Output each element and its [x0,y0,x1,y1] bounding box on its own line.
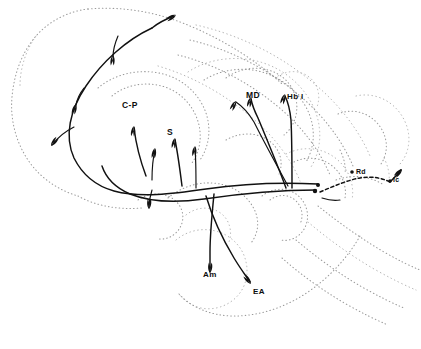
outline-striatum-shell [98,72,209,160]
tract-amygdala-descend [210,194,214,272]
label-lc: lc [393,176,399,183]
tract-raphe-dashed [320,177,390,192]
label-ea: EA [253,288,265,296]
label-s: S [167,128,173,137]
outline-thalamus-inner [204,69,313,162]
outline-striatum-core [112,84,200,163]
outline-brainstem-2 [308,222,416,290]
tract-brainstem-short-1 [322,198,340,200]
outline-thalamus-outer [188,59,320,168]
fiber-tract-layer [52,16,401,282]
outline-tectum [338,111,386,164]
label-am: Am [203,271,217,279]
tract-habenular [285,96,292,188]
outline-cortex-arc-3 [178,55,330,175]
outline-rostral-tip [20,36,36,86]
outline-cortex-outer-dorsal [88,8,282,84]
nucleus-dot-dot-rd [350,170,354,174]
label-md: MD [246,91,260,100]
outline-cerebellum-hint [356,95,409,164]
outline-rd-region [340,150,345,174]
nucleus-dot-dot-lc [388,179,392,183]
label-hb-l: Hb l [287,93,304,101]
neuroanatomical-diagram-figure: C-PSMDHb lRdlcAmEA [0,0,421,349]
outline-mamm-inner [270,196,302,225]
nucleus-dot-dot-mfb-origin-2 [313,189,317,193]
label-c-p: C-P [122,101,138,110]
nucleus-dot-layer [313,170,392,193]
outline-lateral-edge [78,196,142,209]
outline-brainstem-4 [282,258,388,325]
outline-hypo-lobe-mid [186,208,231,242]
label-rd: Rd [356,168,366,175]
outline-cortex-arc-1 [196,25,370,156]
nucleus-dot-dot-mfb-origin-1 [316,183,320,187]
outline-lc-region [384,158,389,182]
outline-cortex-arc-2 [190,40,353,166]
outline-brainstem-3 [296,240,404,308]
tract-s-branch-1 [175,140,182,186]
tract-thalamic-md [251,99,286,188]
arrowhead-arrow-s-2 [192,146,197,157]
outline-mammillary [262,189,308,240]
tract-cortical-branch-long [152,16,174,28]
outline-brainstem-1 [318,206,420,270]
tract-cp-branch-1 [134,128,146,176]
